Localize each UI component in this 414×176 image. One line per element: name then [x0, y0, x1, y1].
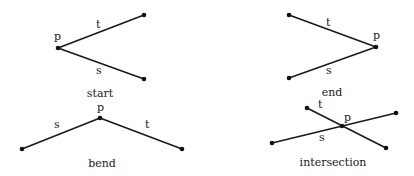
caption-start: start [87, 87, 114, 100]
endpoint-s [20, 147, 25, 152]
endpoint-t [287, 13, 292, 18]
segment-t [289, 15, 376, 47]
point-p [340, 124, 345, 129]
point-p [374, 45, 379, 50]
label-s: s [319, 131, 325, 144]
label-s: s [54, 118, 60, 131]
label-p: p [344, 111, 351, 124]
caption-bend: bend [88, 157, 116, 170]
label-t: t [318, 98, 323, 111]
label-s: s [326, 64, 332, 77]
point-p [98, 116, 103, 121]
endpoint-t-start [305, 106, 310, 111]
endpoint-t [180, 147, 185, 152]
endpoint-s [142, 77, 147, 82]
endpoint-s-end [394, 111, 399, 116]
label-t: t [326, 16, 331, 29]
point-p [56, 46, 61, 51]
label-p: p [373, 29, 380, 42]
segment-s [272, 113, 396, 143]
label-p: p [54, 30, 61, 43]
endpoint-t [142, 13, 147, 18]
panel-end: p t s end [287, 13, 380, 99]
segment-event-diagram: p t s start p t s end p s t bend p [0, 0, 414, 176]
endpoint-t-end [384, 146, 389, 151]
panel-start: p t s start [54, 13, 146, 100]
caption-end: end [322, 86, 343, 99]
label-t: t [145, 118, 150, 131]
panel-intersection: p t s intersection [270, 98, 399, 169]
endpoint-s-start [270, 141, 275, 146]
panel-bend: p s t bend [20, 101, 185, 170]
caption-intersection: intersection [300, 156, 367, 169]
label-s: s [96, 64, 102, 77]
segment-s [22, 118, 100, 149]
label-p: p [97, 101, 104, 114]
endpoint-s [287, 76, 292, 81]
segment-t [58, 15, 144, 48]
segment-s [289, 47, 376, 78]
label-t: t [96, 18, 101, 31]
segment-t [100, 118, 182, 149]
